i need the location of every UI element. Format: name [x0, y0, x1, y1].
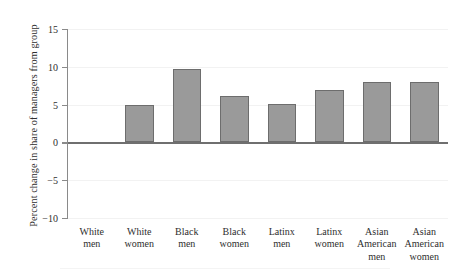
- x-axis-label: Latinxwomen: [306, 226, 354, 251]
- bar: [220, 96, 249, 143]
- x-axis-label: Blackwomen: [211, 226, 259, 251]
- x-axis-label: Whitewomen: [116, 226, 164, 251]
- gridline: [68, 180, 448, 181]
- y-axis-tick-label: 5: [18, 99, 58, 110]
- y-axis-tick-label: −5: [18, 175, 58, 186]
- gridline: [68, 218, 448, 219]
- y-axis-tick-label: 15: [18, 24, 58, 35]
- bar: [410, 82, 439, 142]
- gridline: [68, 67, 448, 68]
- y-axis-tick-label: 0: [18, 137, 58, 148]
- x-axis-label: AsianAmericanwomen: [401, 226, 449, 263]
- x-axis-label: Blackmen: [163, 226, 211, 251]
- bar: [173, 69, 202, 142]
- bar: [315, 90, 344, 142]
- bar: [125, 105, 154, 142]
- x-axis-label: AsianAmericanmen: [353, 226, 401, 263]
- x-axis-label: Latinxmen: [258, 226, 306, 251]
- y-axis-tick-label: 10: [18, 61, 58, 72]
- y-axis-title: Percent change in share of managers from…: [22, 8, 44, 243]
- footer-divider: [60, 268, 390, 269]
- y-axis-spine: [67, 29, 68, 218]
- gridline: [68, 29, 448, 30]
- bar: [268, 104, 297, 143]
- x-axis-label: Whitemen: [68, 226, 116, 251]
- bar: [363, 82, 392, 142]
- bar-chart: Percent change in share of managers from…: [0, 0, 455, 275]
- zero-baseline: [68, 142, 448, 143]
- y-axis-tick-label: −10: [18, 213, 58, 224]
